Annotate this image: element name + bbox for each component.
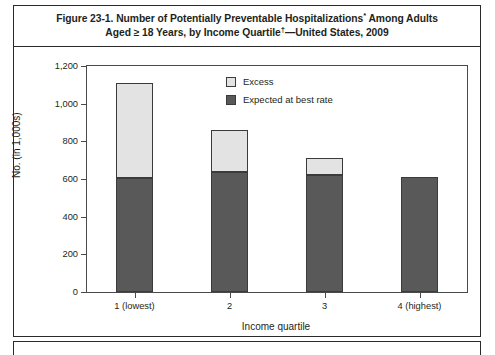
y-axis-tick [81, 179, 87, 180]
y-axis-tick-label: 0 [73, 287, 78, 297]
legend-item: Expected at best rate [226, 94, 333, 105]
next-figure-partial-box [13, 341, 481, 355]
y-axis-tick-label: 400 [62, 212, 78, 222]
legend-item: Excess [226, 76, 333, 87]
y-axis-tick [81, 217, 87, 218]
y-axis-tick [81, 292, 87, 293]
y-axis-tick [81, 254, 87, 255]
x-axis-tick-label: 3 [322, 301, 327, 311]
bar-column [211, 130, 248, 292]
legend-label: Expected at best rate [243, 94, 333, 105]
y-axis-tick-label: 600 [62, 174, 78, 184]
x-axis-tick-label: 4 (highest) [398, 301, 442, 311]
bar-segment-excess [116, 83, 153, 178]
chart-plot-area: No. (in 1,000s) 02004006008001,0001,2001… [14, 47, 480, 336]
figure-title-band: Figure 23-1. Number of Potentially Preve… [14, 6, 480, 47]
figure-container: Figure 23-1. Number of Potentially Preve… [13, 5, 481, 337]
legend-swatch [226, 77, 236, 87]
legend-swatch [226, 95, 236, 105]
y-axis-tick-label: 1,000 [55, 99, 78, 109]
bar-segment-excess [306, 158, 343, 175]
chart-legend: ExcessExpected at best rate [226, 76, 333, 112]
y-axis-tick-label: 200 [62, 249, 78, 259]
x-axis-tick [420, 292, 421, 298]
y-axis-title: No. (in 1,000s) [11, 112, 22, 178]
title-line1b-text: Among Adults [366, 13, 438, 24]
y-axis-tick [81, 104, 87, 105]
x-axis-title: Income quartile [86, 321, 466, 332]
x-axis-tick-label: 1 (lowest) [114, 301, 154, 311]
bar-segment-expected [211, 172, 248, 292]
y-axis-tick [81, 141, 87, 142]
title-line2b-text: —United States, 2009 [285, 27, 389, 38]
bar-segment-expected [306, 175, 343, 292]
bar-column [116, 83, 153, 292]
y-axis-tick [81, 66, 87, 67]
bar-segment-expected [401, 177, 438, 292]
title-line2-text: Aged ≥ 18 Years, by Income Quartile [105, 27, 280, 38]
title-line1-text: Figure 23-1. Number of Potentially Preve… [56, 13, 363, 24]
x-axis-tick [230, 292, 231, 298]
x-axis-tick [135, 292, 136, 298]
y-axis-tick-label: 800 [62, 136, 78, 146]
page-title: Figure 23-1. Number of Potentially Preve… [44, 12, 450, 40]
bar-segment-expected [116, 178, 153, 292]
bar-column [306, 158, 343, 292]
legend-label: Excess [243, 76, 274, 87]
x-axis-tick [325, 292, 326, 298]
y-axis-tick-label: 1,200 [55, 61, 78, 71]
x-axis-tick-label: 2 [227, 301, 232, 311]
bar-segment-excess [211, 130, 248, 172]
bar-column [401, 177, 438, 292]
